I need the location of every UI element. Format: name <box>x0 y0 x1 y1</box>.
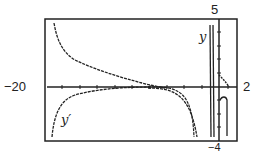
y-max-label: 5 <box>211 2 218 17</box>
x-max-label: 2 <box>243 79 250 94</box>
asymptote-strand-1 <box>210 25 211 137</box>
series-yprime-right-piece <box>220 97 227 136</box>
series-y-right-piece <box>219 75 229 87</box>
asymptote-strand-2 <box>213 25 214 137</box>
series-yprime-right-branch <box>148 87 194 137</box>
series-y-right-branch <box>148 88 197 137</box>
series-y-label: y <box>199 29 206 44</box>
plot-frame <box>45 19 237 141</box>
chart-canvas <box>0 0 259 155</box>
x-min-label: −20 <box>4 79 26 94</box>
y-min-label: −4 <box>208 141 221 153</box>
series-y-curve <box>54 23 165 88</box>
series-yprime-label: y′ <box>61 112 71 127</box>
